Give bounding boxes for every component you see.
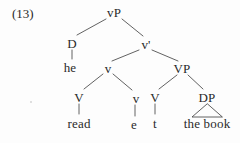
- edge-vp-vbar: [122, 19, 143, 36]
- terminal-he: he: [64, 61, 77, 74]
- node-v-small: v: [133, 92, 140, 105]
- edge-vp-v: [159, 75, 177, 89]
- node-vp: VP: [173, 62, 190, 75]
- edge-vp-d: [77, 19, 106, 35]
- edge-vbar-vp: [152, 50, 178, 61]
- node-v-right: V: [150, 91, 160, 104]
- edge-vhead-vsmall: [113, 74, 132, 90]
- node-d: D: [67, 37, 77, 50]
- node-vp-root: vP: [107, 6, 121, 19]
- syntax-tree-figure: (13): [0, 0, 240, 143]
- scan-artifact-dot: [30, 101, 32, 103]
- terminal-t: t: [153, 117, 157, 130]
- edge-vhead-v: [84, 74, 103, 89]
- terminal-read: read: [67, 117, 90, 130]
- edge-vbar-vhead: [112, 50, 139, 61]
- node-v-bar: v': [141, 38, 150, 51]
- node-v-head: v: [105, 62, 112, 75]
- terminal-the-book: the book: [184, 117, 231, 130]
- node-v-left: V: [74, 91, 84, 104]
- edge-vp-dp: [188, 75, 203, 89]
- terminal-e: e: [131, 118, 137, 131]
- node-dp: DP: [198, 91, 215, 104]
